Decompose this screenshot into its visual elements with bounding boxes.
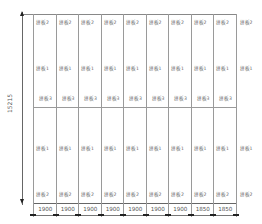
panel-label-mid: 拼板1 [81, 66, 94, 72]
panel-label-bottom-mid: 拼板1 [194, 146, 207, 152]
panel-label-top: 拼板2 [104, 20, 117, 26]
arrow-down-icon [20, 199, 24, 204]
column-divider-line [33, 14, 34, 204]
panel-label-bottom-low: 拼板2 [36, 192, 49, 198]
panel-label-bottom-low: 拼板2 [171, 192, 184, 198]
dimension-tick-icon [143, 214, 149, 216]
panel-label-top: 拼板2 [36, 20, 49, 26]
panel-label-bottom-mid: 拼板1 [59, 146, 72, 152]
panel-label-mid: 拼板1 [104, 66, 117, 72]
panel-label-bottom-low: 拼板2 [59, 192, 72, 198]
width-dimension: 1850 [215, 206, 236, 213]
panel-label-top: 拼板2 [149, 20, 162, 26]
edge-label-mid: 拼板1 [240, 66, 253, 72]
panel-label-low: 拼板3 [62, 96, 75, 102]
edge-label-top: 拼板2 [240, 20, 253, 26]
panel-label-top: 拼板2 [194, 20, 207, 26]
panel-label-top: 拼板2 [216, 20, 229, 26]
panel-label-mid: 拼板1 [59, 66, 72, 72]
panel-label-bottom-low: 拼板2 [194, 192, 207, 198]
column-divider-line [146, 14, 147, 204]
panel-label-bottom-low: 拼板2 [81, 192, 94, 198]
width-dimension: 1900 [148, 206, 169, 213]
width-dimension: 1850 [193, 206, 214, 213]
column-divider-line [213, 14, 214, 204]
panel-label-top: 拼板2 [59, 20, 72, 26]
column-divider-line [101, 14, 102, 204]
column-divider-line [56, 14, 57, 204]
panel-label-bottom-low: 拼板2 [126, 192, 139, 198]
panel-label-mid: 拼板1 [149, 66, 162, 72]
dimension-tick-icon [210, 214, 216, 216]
middle-split-line [33, 107, 237, 108]
dimension-tick-icon [30, 214, 36, 216]
panel-label-bottom-mid: 拼板1 [216, 146, 229, 152]
panel-label-low: 拼板3 [39, 96, 52, 102]
height-dimension-label: 15215 [6, 93, 13, 115]
column-divider-line [123, 14, 124, 204]
panel-label-top: 拼板2 [126, 20, 139, 26]
dimension-tick-icon [53, 214, 59, 216]
width-dimension: 1900 [35, 206, 56, 213]
dimension-baseline [33, 215, 237, 216]
dimension-tick-icon [98, 214, 104, 216]
panel-label-low: 拼板3 [197, 96, 210, 102]
column-divider-line [78, 14, 79, 204]
panel-label-low: 拼板3 [174, 96, 187, 102]
panel-label-top: 拼板2 [81, 20, 94, 26]
panel-label-low: 拼板3 [129, 96, 142, 102]
panel-label-low: 拼板3 [84, 96, 97, 102]
panel-label-low: 拼板3 [152, 96, 165, 102]
bottom-border-line [33, 203, 237, 204]
panel-label-mid: 拼板1 [36, 66, 49, 72]
panel-label-bottom-mid: 拼板1 [104, 146, 117, 152]
panel-label-bottom-low: 拼板2 [216, 192, 229, 198]
panel-label-bottom-mid: 拼板1 [81, 146, 94, 152]
panel-label-mid: 拼板1 [216, 66, 229, 72]
panel-label-mid: 拼板1 [126, 66, 139, 72]
panel-label-bottom-mid: 拼板1 [149, 146, 162, 152]
dimension-tick-icon [233, 214, 239, 216]
width-dimension: 1900 [58, 206, 79, 213]
column-divider-line [236, 14, 237, 204]
panel-label-top: 拼板2 [171, 20, 184, 26]
edge-label-bottom-low: 拼板2 [240, 192, 253, 198]
dimension-tick-icon [165, 214, 171, 216]
panel-label-low: 拼板3 [107, 96, 120, 102]
top-border-line [22, 14, 237, 15]
edge-label-bottom-mid: 拼板1 [240, 146, 253, 152]
panel-label-bottom-mid: 拼板1 [36, 146, 49, 152]
panel-label-bottom-mid: 拼板1 [171, 146, 184, 152]
dimension-tick-icon [188, 214, 194, 216]
panel-label-bottom-low: 拼板2 [104, 192, 117, 198]
dimension-tick-icon [120, 214, 126, 216]
panel-layout-diagram: 拼板2拼板1拼板3拼板1拼板21900拼板2拼板1拼板3拼板1拼板21900拼板… [0, 0, 262, 224]
panel-label-bottom-low: 拼板2 [149, 192, 162, 198]
height-dimension-line [22, 12, 23, 205]
panel-label-mid: 拼板1 [194, 66, 207, 72]
width-dimension: 1900 [80, 206, 101, 213]
dimension-tick-icon [75, 214, 81, 216]
column-divider-line [191, 14, 192, 204]
panel-label-bottom-mid: 拼板1 [126, 146, 139, 152]
width-dimension: 1900 [103, 206, 124, 213]
column-divider-line [168, 14, 169, 204]
panel-label-low: 拼板3 [219, 96, 232, 102]
width-dimension: 1900 [125, 206, 146, 213]
width-dimension: 1900 [170, 206, 191, 213]
arrow-up-icon [20, 11, 24, 16]
panel-label-mid: 拼板1 [171, 66, 184, 72]
